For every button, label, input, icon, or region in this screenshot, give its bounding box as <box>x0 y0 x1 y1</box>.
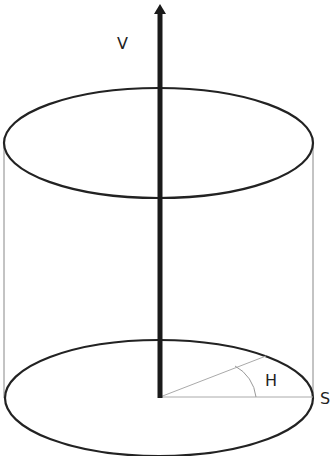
arrow-head-icon <box>154 4 166 14</box>
cylinder-diagram: V H S <box>0 0 336 456</box>
angle-arc <box>235 366 256 397</box>
angled-line <box>160 356 266 397</box>
label-v: V <box>117 34 128 53</box>
label-s: S <box>320 389 330 408</box>
label-h: H <box>265 371 277 390</box>
